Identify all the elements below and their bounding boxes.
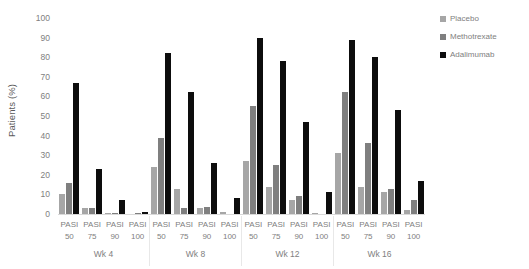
bar-group — [150, 18, 242, 214]
y-axis-tick-labels: 0102030405060708090100 — [22, 18, 54, 214]
bar — [59, 194, 65, 214]
bar-cluster — [243, 18, 263, 214]
group-label: Wk 16 — [334, 246, 425, 266]
bar — [289, 200, 295, 214]
category-label: PASI75 — [357, 216, 380, 248]
bar-group-bars — [150, 18, 242, 214]
category-label: PASI50 — [334, 216, 357, 248]
group-label: Wk 4 — [58, 246, 150, 266]
y-axis-tick-label: 50 — [41, 111, 50, 121]
bar — [73, 83, 79, 214]
bar — [411, 200, 417, 214]
category-label: PASI90 — [380, 216, 403, 248]
bar-cluster — [105, 18, 125, 214]
group-label: Wk 12 — [242, 246, 334, 266]
category-label: PASI100 — [310, 216, 333, 248]
bar — [211, 163, 217, 214]
bar — [326, 192, 332, 214]
legend-item[interactable]: Placebo — [440, 10, 529, 27]
bar — [257, 38, 263, 214]
bar — [234, 198, 240, 214]
y-axis-tick-label: 0 — [45, 209, 50, 219]
category-label: PASI90 — [288, 216, 311, 248]
category-label-group: PASI50PASI75PASI90PASI100 — [334, 216, 425, 248]
bar — [243, 161, 249, 214]
y-axis-tick-label: 40 — [41, 131, 50, 141]
category-label: PASI100 — [402, 216, 425, 248]
bar — [151, 167, 157, 214]
plot-area — [58, 18, 425, 214]
y-axis-tick-label: 100 — [36, 13, 50, 23]
category-label-group: PASI50PASI75PASI90PASI100 — [242, 216, 334, 248]
y-axis-title: Patients (%) — [0, 0, 22, 220]
group-label: Wk 8 — [150, 246, 242, 266]
bar-cluster — [358, 18, 378, 214]
category-label: PASI50 — [150, 216, 173, 248]
bar-group-bars — [58, 18, 150, 214]
bar — [395, 110, 401, 214]
bar-group — [333, 18, 425, 214]
bar-cluster — [197, 18, 217, 214]
category-label: PASI75 — [265, 216, 288, 248]
bar — [66, 183, 72, 214]
bar — [174, 189, 180, 214]
bar-group-bars — [333, 18, 425, 214]
legend: PlaceboMethotrexateAdalimumab — [440, 10, 529, 64]
x-axis-category-labels: PASI50PASI75PASI90PASI100PASI50PASI75PAS… — [58, 216, 425, 248]
bar-chart: Patients (%) 0102030405060708090100 PASI… — [0, 0, 529, 269]
category-label: PASI90 — [104, 216, 127, 248]
bar-cluster — [151, 18, 171, 214]
bar-cluster — [266, 18, 286, 214]
x-axis-line — [58, 214, 425, 215]
y-axis-tick-label: 80 — [41, 52, 50, 62]
bar-cluster — [335, 18, 355, 214]
bar — [381, 192, 387, 214]
bar-cluster — [128, 18, 148, 214]
bar — [250, 106, 256, 214]
y-axis-tick-label: 70 — [41, 72, 50, 82]
category-label: PASI100 — [126, 216, 149, 248]
bar — [280, 61, 286, 214]
y-axis-tick-label: 20 — [41, 170, 50, 180]
legend-item-label: Placebo — [450, 14, 479, 23]
legend-item[interactable]: Adalimumab — [440, 46, 529, 63]
y-axis-tick-label: 10 — [41, 189, 50, 199]
square-swatch-icon — [440, 34, 446, 40]
square-swatch-icon — [440, 52, 446, 58]
bar — [418, 181, 424, 214]
bar — [158, 138, 164, 214]
bar-cluster — [220, 18, 240, 214]
bar-group — [242, 18, 334, 214]
y-axis-title-text: Patients (%) — [6, 84, 17, 137]
legend-item-label: Adalimumab — [450, 50, 494, 59]
bar — [273, 165, 279, 214]
square-swatch-icon — [440, 16, 446, 22]
category-label-group: PASI50PASI75PASI90PASI100 — [58, 216, 150, 248]
category-label: PASI75 — [81, 216, 104, 248]
bar — [188, 92, 194, 214]
bar — [266, 187, 272, 214]
bar-cluster — [404, 18, 424, 214]
bar — [372, 57, 378, 214]
bar — [296, 196, 302, 214]
category-label: PASI50 — [242, 216, 265, 248]
category-label: PASI75 — [173, 216, 196, 248]
legend-item[interactable]: Methotrexate — [440, 28, 529, 45]
y-axis-tick-label: 90 — [41, 33, 50, 43]
bar-group — [58, 18, 150, 214]
bar — [204, 207, 210, 214]
legend-item-label: Methotrexate — [450, 32, 497, 41]
bar — [342, 92, 348, 214]
category-label: PASI90 — [196, 216, 219, 248]
y-axis-tick-label: 30 — [41, 150, 50, 160]
bar — [358, 187, 364, 214]
bar — [165, 53, 171, 214]
category-label: PASI100 — [218, 216, 241, 248]
bar — [119, 200, 125, 214]
bar — [303, 122, 309, 214]
bar — [335, 153, 341, 214]
y-axis-tick-label: 60 — [41, 91, 50, 101]
bar-cluster — [174, 18, 194, 214]
category-label-group: PASI50PASI75PASI90PASI100 — [150, 216, 242, 248]
bar-cluster — [82, 18, 102, 214]
